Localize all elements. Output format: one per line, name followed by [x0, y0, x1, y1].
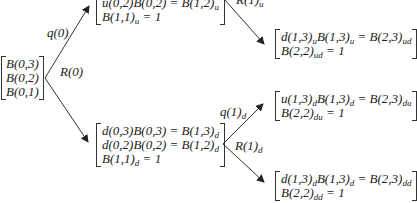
- label-q0: q(0): [47, 25, 69, 41]
- ud-row: B(2,2)ud = 1: [281, 44, 411, 58]
- label-r1u: R(1)u: [236, 0, 264, 8]
- ud-node: d(1,3)uB(1,3)u = B(2,3)ud B(2,2)ud = 1: [275, 29, 417, 59]
- ud-row: d(1,3)uB(1,3)u = B(2,3)ud: [281, 30, 411, 44]
- dd-row: B(2,2)dd = 1: [281, 186, 411, 200]
- down-row: B(1,1)d = 1: [102, 152, 219, 166]
- label-r0: R(0): [60, 64, 83, 80]
- root-row: B(0,1): [6, 85, 39, 99]
- down-node: d(0,3)B(0,3) = B(1,3)d d(0,2)B(0,2) = B(…: [96, 123, 225, 167]
- root-row: B(0,3): [6, 57, 39, 71]
- down-row: d(0,3)B(0,3) = B(1,3)d: [102, 124, 219, 138]
- dd-row: d(1,3)dB(1,3)d = B(2,3)dd: [281, 172, 411, 186]
- du-row: u(1,3)dB(1,3)d = B(2,3)du: [281, 92, 411, 106]
- up-node: u(0,2)B(0,2) = B(1,2)u B(1,1)u = 1: [96, 0, 225, 25]
- root-row: B(0,2): [6, 71, 39, 85]
- label-q1d: q(1)d: [220, 104, 246, 120]
- edge-root-down: [45, 78, 88, 142]
- root-node: B(0,3) B(0,2) B(0,1): [1, 56, 44, 100]
- up-row: B(1,1)u = 1: [102, 10, 219, 24]
- du-row: B(2,2)du = 1: [281, 106, 411, 120]
- label-r1d: R(1)d: [235, 138, 263, 154]
- dd-node: d(1,3)dB(1,3)d = B(2,3)dd B(2,2)dd = 1: [275, 171, 417, 201]
- down-row: d(0,2)B(0,2) = B(1,2)d: [102, 138, 219, 152]
- du-node: u(1,3)dB(1,3)d = B(2,3)du B(2,2)du = 1: [275, 91, 417, 121]
